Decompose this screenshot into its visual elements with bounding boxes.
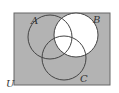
set-c-label: C — [80, 73, 88, 84]
set-a-label: A — [30, 15, 38, 26]
set-b-label: B — [92, 14, 100, 25]
venn-diagram: A B C U — [0, 0, 119, 93]
universe-label: U — [6, 78, 15, 89]
